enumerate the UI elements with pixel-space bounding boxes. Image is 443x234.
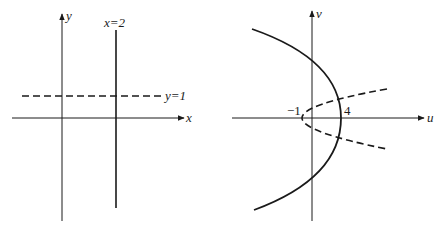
line-x-equals-2-label: x=2 xyxy=(103,15,126,30)
solid-parabola-curve xyxy=(252,29,341,210)
vertex-label-4: 4 xyxy=(344,103,351,118)
v-axis-label: v xyxy=(316,6,322,21)
u-axis-label: u xyxy=(427,110,434,125)
y-axis-label: y xyxy=(64,8,72,23)
uv-plane-panel: u v −1 4 xyxy=(232,6,434,221)
mapping-diagram: x y x=2 y=1 u v −1 4 xyxy=(0,0,443,234)
vertex-label-minus-1: −1 xyxy=(287,103,301,118)
xy-plane-panel: x y x=2 y=1 xyxy=(12,8,192,221)
x-axis-label: x xyxy=(185,110,192,125)
line-y-equals-1-label: y=1 xyxy=(163,88,186,103)
dashed-parabola-curve xyxy=(302,89,387,149)
